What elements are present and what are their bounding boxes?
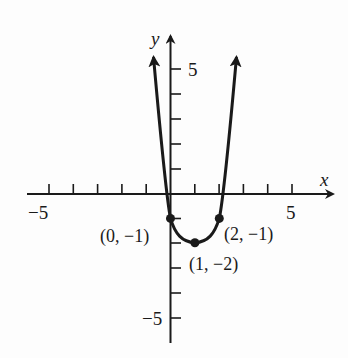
y-axis-label: y	[149, 28, 160, 49]
x-tick-label-neg5: −5	[28, 202, 48, 223]
point-label-1-neg2: (1, −2)	[189, 254, 238, 275]
point-0-neg1	[166, 214, 175, 223]
x-tick-label-5: 5	[286, 202, 296, 223]
point-label-0-neg1: (0, −1)	[100, 226, 149, 247]
point-2-neg1	[215, 214, 224, 223]
point-1-neg2	[190, 238, 199, 247]
x-axis-label: x	[319, 169, 329, 190]
point-label-2-neg1: (2, −1)	[224, 224, 273, 245]
graph-figure: x y −5 5 5 −5 (0, −1) (2, −1) (1, −2)	[0, 0, 348, 358]
y-tick-label-5: 5	[188, 59, 198, 80]
plot-svg: x y −5 5 5 −5 (0, −1) (2, −1) (1, −2)	[0, 0, 348, 358]
y-tick-label-neg5: −5	[142, 308, 162, 329]
